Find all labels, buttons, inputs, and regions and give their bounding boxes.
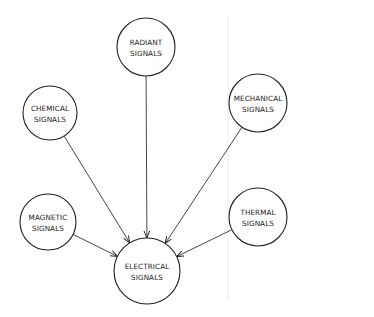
node-electrical-signals: ELECTRICAL SIGNALS bbox=[114, 238, 180, 304]
node-circle bbox=[114, 238, 180, 304]
node-thermal-signals: THERMAL SIGNALS bbox=[229, 188, 287, 246]
node-circle bbox=[117, 18, 175, 76]
node-label-line2: SIGNALS bbox=[32, 224, 64, 233]
arrow-radiant-to-electrical bbox=[146, 76, 147, 238]
node-label-line1: MECHANICAL bbox=[234, 94, 283, 103]
node-label-line1: RADIANT bbox=[130, 38, 163, 47]
node-chemical-signals: CHEMICAL SIGNALS bbox=[23, 86, 77, 140]
node-label-line1: CHEMICAL bbox=[31, 104, 69, 113]
node-label-line2: SIGNALS bbox=[130, 49, 162, 58]
arrow-magnetic-to-electrical bbox=[73, 234, 117, 256]
node-circle bbox=[229, 74, 287, 132]
node-circle bbox=[229, 188, 287, 246]
node-circle bbox=[23, 86, 77, 140]
node-label-line2: SIGNALS bbox=[131, 273, 163, 282]
arrow-thermal-to-electrical bbox=[177, 230, 232, 257]
node-circle bbox=[20, 194, 76, 250]
node-label-line1: THERMAL bbox=[239, 208, 275, 217]
node-magnetic-signals: MAGNETIC SIGNALS bbox=[20, 194, 76, 250]
node-label-line2: SIGNALS bbox=[242, 219, 274, 228]
edges-group bbox=[64, 76, 242, 257]
node-label-line1: MAGNETIC bbox=[29, 213, 68, 222]
node-label-line2: SIGNALS bbox=[242, 105, 274, 114]
nodes-group: RADIANT SIGNALS CHEMICAL SIGNALS MECHANI… bbox=[20, 18, 287, 304]
node-radiant-signals: RADIANT SIGNALS bbox=[117, 18, 175, 76]
signal-conversion-diagram: RADIANT SIGNALS CHEMICAL SIGNALS MECHANI… bbox=[0, 0, 374, 317]
node-mechanical-signals: MECHANICAL SIGNALS bbox=[229, 74, 287, 132]
node-label-line2: SIGNALS bbox=[34, 115, 66, 124]
node-label-line1: ELECTRICAL bbox=[125, 262, 170, 271]
